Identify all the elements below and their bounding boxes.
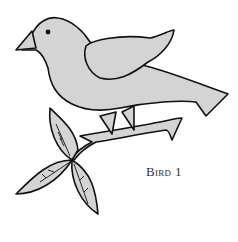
- bird-leg: [122, 106, 134, 130]
- figure-caption: Bird 1: [146, 164, 182, 180]
- bird-illustration: [0, 0, 238, 242]
- bird-beak: [16, 31, 36, 50]
- branch: [72, 118, 182, 160]
- bird-eye: [46, 30, 51, 35]
- leaf: [16, 160, 72, 194]
- leaf: [50, 108, 78, 160]
